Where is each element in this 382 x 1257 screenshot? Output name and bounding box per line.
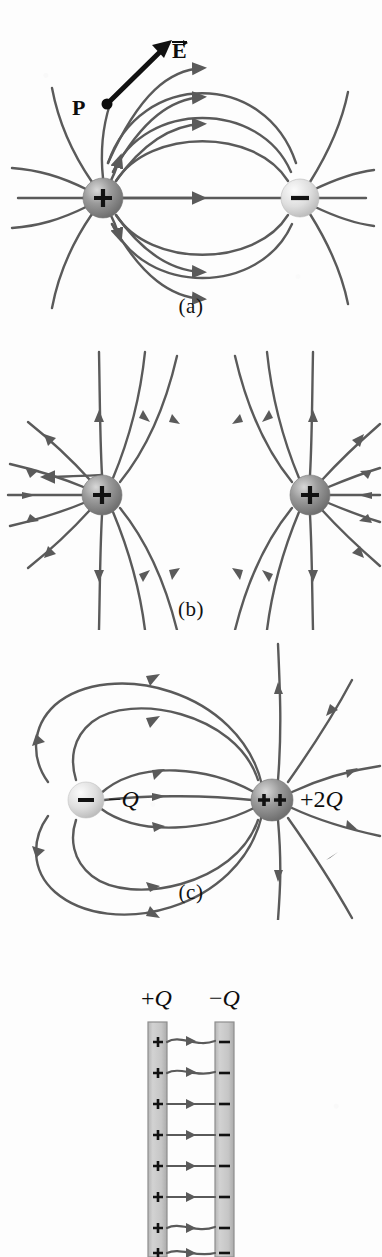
field-vector-arrow-at-P <box>108 40 172 103</box>
charge-label-minus-q: −Q <box>108 786 139 813</box>
charge-positive-b-right <box>290 475 330 515</box>
panel-c-caption: (c) <box>0 880 382 905</box>
capacitor-negative-plate <box>215 1022 234 1257</box>
charge-positive-double-c <box>251 779 293 821</box>
point-P-marker <box>102 99 113 110</box>
panel-a-caption: (a) <box>0 294 382 319</box>
charge-negative-c <box>68 782 104 818</box>
field-lines-group-d <box>167 1036 215 1257</box>
panel-b-caption: (b) <box>0 597 382 622</box>
panel-b-like-charges <box>0 330 382 630</box>
charge-negative-a <box>281 179 319 217</box>
field-lines-group-a <box>12 68 374 308</box>
panel-c-unequal-charges <box>0 630 382 920</box>
panel-a-dipole <box>0 0 382 330</box>
charge-label-plus-2q: +2Q <box>300 786 343 813</box>
electric-field-lines-figure: P E (a) <box>0 0 382 1257</box>
electric-field-vector-label: E <box>172 36 187 64</box>
panel-d-parallel-plates <box>0 920 382 1257</box>
vector-arrow-accent <box>172 41 187 43</box>
plate-label-plus-q: +Q <box>141 985 172 1012</box>
charge-positive-a <box>83 178 123 218</box>
plate-label-minus-q: −Q <box>209 985 240 1012</box>
charge-positive-b-left <box>82 475 122 515</box>
point-P-label: P <box>72 95 85 121</box>
